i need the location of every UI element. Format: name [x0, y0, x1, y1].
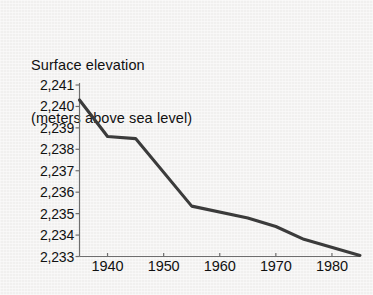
chart-tick-marks: [76, 85, 332, 257]
x-axis-label-1960: 1960: [195, 259, 245, 274]
y-axis-label-2,234: 2,234: [12, 228, 74, 242]
elevation-line-series: [80, 100, 361, 255]
y-axis-label-2,238: 2,238: [12, 142, 74, 156]
y-axis-label-2,237: 2,237: [12, 164, 74, 178]
x-axis-label-1970: 1970: [251, 259, 301, 274]
x-axis-label-1950: 1950: [139, 259, 189, 274]
y-axis-label-2,239: 2,239: [12, 121, 74, 135]
chart-page: Surface elevation (meters above sea leve…: [0, 0, 373, 295]
chart-axes: [80, 83, 361, 257]
y-axis-label-2,241: 2,241: [12, 78, 74, 92]
x-axis-label-1980: 1980: [307, 259, 357, 274]
y-axis-label-2,235: 2,235: [12, 207, 74, 221]
y-axis-label-2,233: 2,233: [12, 250, 74, 264]
y-axis-label-2,240: 2,240: [12, 99, 74, 113]
y-axis-label-2,236: 2,236: [12, 185, 74, 199]
x-axis-label-1940: 1940: [83, 259, 133, 274]
